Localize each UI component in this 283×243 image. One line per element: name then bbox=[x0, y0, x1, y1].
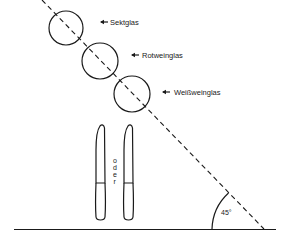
weissweinglas-label: Weißweinglas bbox=[174, 88, 221, 97]
sektglas-label: Sektglas bbox=[110, 18, 139, 27]
rotweinglas: Rotweinglas bbox=[82, 43, 183, 79]
svg-text:o: o bbox=[113, 157, 117, 164]
sektglas-circle bbox=[49, 11, 83, 45]
svg-text:d: d bbox=[113, 164, 117, 171]
arrow-left-icon bbox=[162, 90, 170, 94]
svg-text:r: r bbox=[114, 178, 117, 185]
svg-text:e: e bbox=[113, 171, 117, 178]
rotweinglas-circle bbox=[82, 43, 118, 79]
rotweinglas-label: Rotweinglas bbox=[142, 51, 183, 60]
knife-right bbox=[124, 125, 134, 220]
weissweinglas: Weißweinglas bbox=[114, 76, 221, 112]
oder-text: o d e r bbox=[113, 157, 117, 185]
diagonal-dashed-line bbox=[42, 0, 264, 229]
arrow-left-icon bbox=[100, 20, 108, 24]
sektglas: Sektglas bbox=[49, 11, 139, 45]
arrow-left-icon bbox=[131, 53, 139, 57]
angle-label: 45° bbox=[221, 209, 232, 216]
weissweinglas-circle bbox=[114, 76, 150, 112]
glass-placement-diagram: 45° Sektglas Rotweinglas Weißweinglas bbox=[0, 0, 283, 243]
knife-left bbox=[96, 125, 106, 220]
